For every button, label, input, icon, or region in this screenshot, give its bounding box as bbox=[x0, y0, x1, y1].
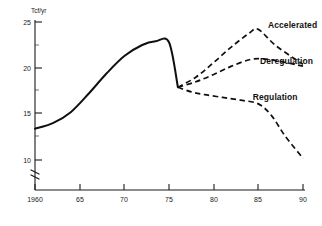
chart-figure: Tcf/yr 25 20 15 10 1960 65 70 75 80 85 9… bbox=[0, 0, 322, 226]
x-tick-label-1960: 1960 bbox=[27, 196, 43, 203]
series-annotation-regulation: Regulation bbox=[253, 92, 298, 102]
y-tick-label-15: 15 bbox=[23, 110, 31, 117]
y-tick-label-20: 20 bbox=[23, 65, 31, 72]
x-tick-label-85: 85 bbox=[254, 196, 262, 203]
y-tick-label-25: 25 bbox=[23, 19, 31, 26]
x-tick-label-75: 75 bbox=[165, 196, 173, 203]
series-annotation-deregulation: Deregulation bbox=[260, 56, 313, 66]
x-tick-label-90: 90 bbox=[299, 196, 307, 203]
series-line-historical bbox=[35, 38, 178, 128]
y-axis-title: Tcf/yr bbox=[31, 7, 47, 15]
x-tick-label-80: 80 bbox=[210, 196, 218, 203]
x-axis-ticks bbox=[35, 184, 303, 190]
x-tick-label-65: 65 bbox=[76, 196, 84, 203]
series-annotation-accelerated: Accelerated bbox=[268, 20, 317, 30]
chart-plot-area: Tcf/yr 25 20 15 10 1960 65 70 75 80 85 9… bbox=[0, 0, 322, 226]
y-tick-label-10: 10 bbox=[23, 157, 31, 164]
y-axis-ticks bbox=[35, 22, 42, 160]
x-tick-label-70: 70 bbox=[120, 196, 128, 203]
